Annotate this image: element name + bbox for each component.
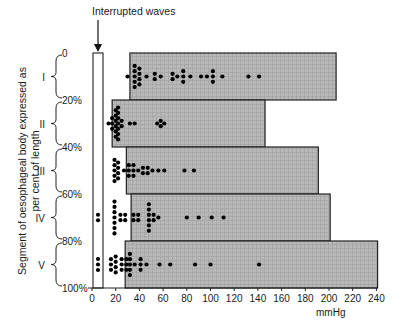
interrupted-waves-arrow-icon	[94, 20, 102, 52]
svg-text:120: 120	[226, 293, 243, 304]
x-axis-title: mmHg	[316, 307, 345, 318]
svg-text:200: 200	[321, 293, 338, 304]
svg-text:160: 160	[273, 293, 290, 304]
svg-text:100: 100	[202, 293, 219, 304]
svg-text:I: I	[42, 72, 45, 83]
svg-text:60%: 60%	[62, 189, 82, 200]
svg-text:180: 180	[297, 293, 314, 304]
interrupted-waves-label: Interrupted waves	[92, 5, 175, 17]
interrupted-waves-bar	[93, 53, 103, 288]
svg-text:III: III	[37, 166, 45, 177]
y-axis: 020%40%60%80%100%IIIIIIIVV	[36, 48, 88, 294]
svg-text:40: 40	[134, 293, 146, 304]
svg-text:80: 80	[181, 293, 193, 304]
segment-box-V	[125, 241, 377, 288]
svg-text:40%: 40%	[62, 142, 82, 153]
svg-text:220: 220	[344, 293, 361, 304]
svg-text:0: 0	[89, 293, 95, 304]
svg-text:IV: IV	[36, 213, 46, 224]
svg-text:140: 140	[250, 293, 267, 304]
svg-text:100%: 100%	[62, 283, 88, 294]
svg-text:60: 60	[158, 293, 170, 304]
svg-text:20: 20	[110, 293, 122, 304]
svg-text:240: 240	[368, 293, 385, 304]
svg-text:II: II	[39, 119, 45, 130]
svg-text:0: 0	[62, 48, 68, 59]
svg-text:Segment of oesophageal body ex: Segment of oesophageal body expressed as	[16, 67, 28, 275]
svg-text:80%: 80%	[62, 236, 82, 247]
oesophageal-pressure-chart: Interrupted waves Segment of oesophageal…	[0, 0, 407, 336]
svg-text:20%: 20%	[62, 95, 82, 106]
segment-box-IV	[131, 194, 330, 241]
segment-box-III	[126, 147, 318, 194]
x-axis: 020406080100120140160180200220240	[88, 288, 385, 304]
svg-text:V: V	[38, 260, 45, 271]
